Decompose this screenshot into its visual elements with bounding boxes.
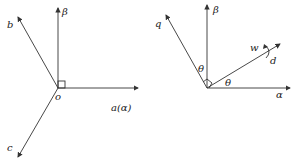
beta-label: β — [61, 6, 68, 17]
a-label: a(α) — [111, 102, 132, 113]
b-axis — [18, 17, 58, 88]
b-label: b — [7, 19, 13, 30]
origin-label: o — [55, 91, 61, 102]
alpha-label: α — [276, 89, 283, 100]
rotation-arrow-icon — [263, 44, 268, 49]
left-frame: β a(α) b c o — [7, 6, 138, 157]
right-angle-marker — [58, 81, 65, 88]
right-frame: β α d q w θ θ — [155, 4, 290, 100]
c-label: c — [7, 142, 13, 153]
theta-label-lower: θ — [225, 77, 231, 88]
coordinate-transform-diagram: β a(α) b c o β α d q w θ θ — [0, 0, 291, 167]
beta-label-right: β — [212, 4, 219, 15]
c-axis — [18, 88, 58, 157]
w-label: w — [250, 42, 259, 53]
q-axis — [166, 15, 207, 88]
q-label: q — [155, 18, 161, 29]
d-label: d — [270, 55, 276, 66]
theta-label-upper: θ — [198, 63, 204, 74]
